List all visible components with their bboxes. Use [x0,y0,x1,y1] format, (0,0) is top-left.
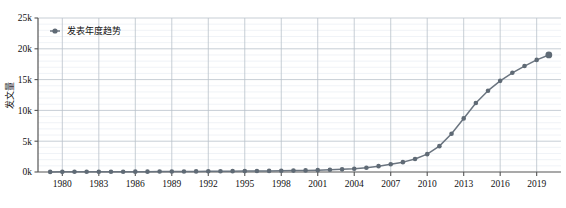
data-point[interactable] [157,169,162,174]
x-tick-label: 2013 [454,179,473,189]
y-axis-title: 发文量 [4,82,15,109]
data-point[interactable] [133,169,138,174]
data-point[interactable] [401,160,406,165]
data-point[interactable] [522,64,527,69]
data-point[interactable] [145,169,150,174]
x-tick-label: 1995 [235,179,254,189]
data-point[interactable] [534,58,539,63]
y-tick-label: 15k [18,75,33,85]
x-tick-label: 2016 [491,179,510,189]
y-tick-label: 0k [23,167,33,177]
x-tick-label: 2019 [527,179,546,189]
data-point[interactable] [510,71,515,76]
data-point[interactable] [413,157,418,162]
data-point[interactable] [437,144,442,149]
y-tick-label: 25k [18,13,33,23]
data-point[interactable] [182,169,187,174]
data-point[interactable] [352,166,357,171]
x-tick-label: 2010 [418,179,437,189]
data-point[interactable] [255,169,260,174]
x-tick-label: 2001 [308,179,327,189]
data-point[interactable] [486,88,491,93]
x-tick-label: 1983 [89,179,108,189]
data-point[interactable] [267,169,272,174]
data-point-highlighted[interactable] [545,52,552,59]
data-point[interactable] [364,165,369,170]
data-point[interactable] [72,170,77,175]
y-tick-label: 20k [18,44,33,54]
x-tick-label: 1980 [53,179,72,189]
data-point[interactable] [60,170,65,175]
data-point[interactable] [474,101,479,106]
x-tick-label: 1989 [162,179,181,189]
data-point[interactable] [230,169,235,174]
y-tick-label: 10k [18,106,33,116]
data-point[interactable] [97,169,102,174]
x-tick-label: 2007 [381,179,400,189]
data-point[interactable] [303,168,308,173]
x-tick-label: 1998 [272,179,291,189]
plot-background [38,18,561,172]
data-point[interactable] [218,169,223,174]
data-point[interactable] [425,152,430,157]
chart-canvas: 0k5k10k15k20k25k198019831986198919921995… [0,0,566,208]
x-tick-label: 2004 [345,179,364,189]
legend-marker [52,28,57,33]
data-point[interactable] [291,168,296,173]
data-point[interactable] [279,168,284,173]
x-tick-label: 1992 [199,179,218,189]
data-point[interactable] [194,169,199,174]
data-point[interactable] [340,167,345,172]
data-point[interactable] [206,169,211,174]
data-point[interactable] [461,116,466,121]
data-point[interactable] [449,132,454,137]
data-point[interactable] [242,169,247,174]
legend-label: 发表年度趋势 [67,25,121,36]
data-point[interactable] [376,164,381,169]
y-tick-label: 5k [23,137,33,147]
data-point[interactable] [388,162,393,167]
data-point[interactable] [328,167,333,172]
data-point[interactable] [109,169,114,174]
data-point[interactable] [48,170,53,175]
data-point[interactable] [498,79,503,84]
data-point[interactable] [169,169,174,174]
x-tick-label: 1986 [126,179,145,189]
data-point[interactable] [84,169,89,174]
publication-trend-chart: 0k5k10k15k20k25k198019831986198919921995… [0,0,566,208]
data-point[interactable] [121,169,126,174]
data-point[interactable] [315,168,320,173]
